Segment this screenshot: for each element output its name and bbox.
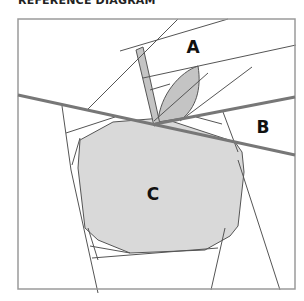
leaf-shape [158, 66, 199, 122]
label-a: A [186, 37, 200, 57]
stem-shape [136, 47, 160, 126]
label-c: C [147, 184, 159, 204]
label-b: B [257, 117, 270, 137]
apple-pattern-diagram: A B C [0, 0, 304, 301]
